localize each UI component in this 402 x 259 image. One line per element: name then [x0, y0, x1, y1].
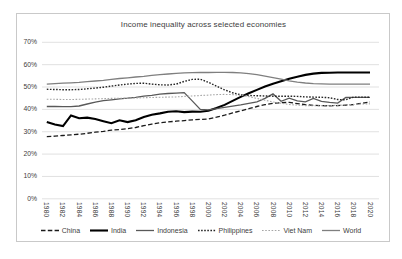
x-tick-label: 1982: [58, 202, 67, 217]
x-tick-label: 2010: [285, 202, 294, 217]
series-line-world: [47, 72, 370, 84]
x-tick-label: 2020: [366, 202, 375, 217]
chart-title: Income inequality across selected econom…: [17, 20, 390, 29]
y-tick-label: 20%: [0, 150, 37, 158]
legend-swatch-icon: [322, 228, 340, 233]
legend-swatch-icon: [136, 228, 154, 233]
x-tick-label: 1990: [123, 202, 132, 217]
legend-item-china: China: [41, 227, 80, 234]
legend-label: World: [343, 227, 361, 234]
legend-item-viet-nam: Viet Nam: [262, 227, 312, 234]
plot-area: [0, 0, 402, 259]
legend-label: China: [62, 227, 80, 234]
x-tick-label: 1992: [139, 202, 148, 217]
legend-item-indonesia: Indonesia: [136, 227, 187, 234]
y-tick-label: 10%: [0, 172, 37, 180]
x-tick-label: 2016: [333, 202, 342, 217]
legend-label: Viet Nam: [283, 227, 312, 234]
y-tick-label: 60%: [0, 61, 37, 69]
y-tick-label: 70%: [0, 38, 37, 46]
x-tick-label: 1988: [107, 202, 116, 217]
y-tick-label: 40%: [0, 105, 37, 113]
y-tick-label: 50%: [0, 83, 37, 91]
y-tick-label: 0%: [0, 195, 37, 203]
x-tick-label: 1984: [75, 202, 84, 217]
x-tick-label: 1986: [91, 202, 100, 217]
legend-swatch-icon: [41, 228, 59, 233]
series-line-philippines: [47, 79, 370, 100]
legend-item-india: India: [90, 227, 126, 234]
x-tick-label: 2000: [204, 202, 213, 217]
legend-item-philippines: Philippines: [198, 227, 253, 234]
legend-label: India: [111, 227, 126, 234]
series-line-viet-nam: [47, 94, 370, 105]
legend-label: Indonesia: [157, 227, 187, 234]
legend: ChinaIndiaIndonesiaPhilippinesViet NamWo…: [24, 225, 378, 236]
x-tick-label: 2014: [317, 202, 326, 217]
legend-swatch-icon: [90, 228, 108, 233]
legend-swatch-icon: [262, 228, 280, 233]
x-tick-label: 1980: [42, 202, 51, 217]
legend-swatch-icon: [198, 228, 216, 233]
x-tick-label: 2004: [236, 202, 245, 217]
legend-item-world: World: [322, 227, 361, 234]
x-tick-label: 2006: [252, 202, 261, 217]
x-tick-label: 2018: [349, 202, 358, 217]
x-tick-label: 2012: [301, 202, 310, 217]
y-tick-label: 30%: [0, 128, 37, 136]
series-line-indonesia: [47, 93, 370, 110]
x-tick-label: 1996: [172, 202, 181, 217]
x-tick-label: 2008: [269, 202, 278, 217]
legend-label: Philippines: [219, 227, 253, 234]
x-tick-label: 1994: [155, 202, 164, 217]
x-tick-label: 2002: [220, 202, 229, 217]
x-tick-label: 1998: [188, 202, 197, 217]
